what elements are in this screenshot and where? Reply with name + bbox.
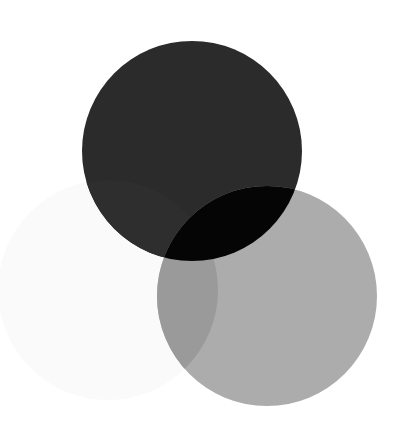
venn-figure <box>0 0 408 429</box>
